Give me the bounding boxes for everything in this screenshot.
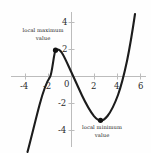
x-tick-label-6: 6 bbox=[138, 82, 143, 91]
local-maximum-annotation: local maximum value bbox=[18, 27, 68, 42]
local-minimum-annotation-line1: local minimum bbox=[76, 124, 128, 132]
y-tick-label--4: -4 bbox=[58, 126, 66, 135]
local-minimum-annotation: local minimum value bbox=[76, 124, 128, 139]
local-maximum-annotation-line2: value bbox=[18, 35, 68, 43]
y-tick-label-4: 4 bbox=[62, 18, 67, 27]
x-tick-label-2: 2 bbox=[91, 82, 96, 91]
graph-figure: -4 -2 0 2 4 6 4 2 -2 -4 local maximum va… bbox=[0, 0, 151, 153]
local-max-marker bbox=[53, 48, 58, 53]
x-tick-label-4: 4 bbox=[114, 82, 119, 91]
y-tick-label--2: -2 bbox=[58, 99, 66, 108]
x-tick-label--2: -2 bbox=[43, 82, 51, 91]
x-tick-label--4: -4 bbox=[20, 82, 28, 91]
local-minimum-annotation-line2: value bbox=[76, 132, 128, 140]
x-tick-label-0: 0 bbox=[64, 80, 69, 89]
local-min-marker bbox=[98, 118, 103, 123]
y-tick-label-2: 2 bbox=[62, 45, 67, 54]
local-maximum-annotation-line1: local maximum bbox=[18, 27, 68, 35]
